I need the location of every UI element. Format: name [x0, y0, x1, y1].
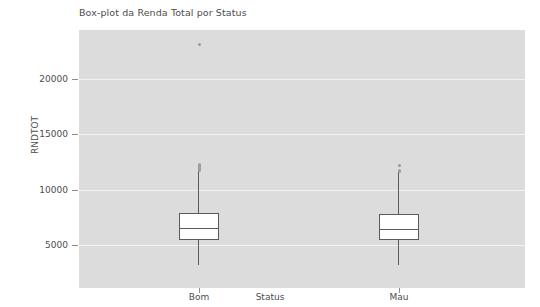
- y-tick-label-5000: 5000: [0, 239, 79, 251]
- y-tick-mark-5000: [72, 245, 78, 246]
- boxplot-figure: Box-plot da Renda Total por Status RNDTO…: [0, 0, 540, 307]
- mau-outlier-high: [398, 164, 401, 167]
- bom-outlier-high: [198, 43, 201, 46]
- gridline-20000: [79, 79, 525, 80]
- y-tick-mark-20000: [72, 79, 78, 80]
- mau-lower-whisker: [398, 240, 399, 265]
- mau-box: [379, 214, 419, 240]
- gridline-10000: [79, 190, 525, 191]
- gridline-5000: [79, 245, 525, 246]
- bom-outlier-cluster: [198, 163, 201, 172]
- mau-upper-whisker: [398, 172, 399, 214]
- x-axis-title: Status: [0, 292, 540, 302]
- bom-box: [179, 213, 219, 240]
- mau-median: [379, 229, 419, 230]
- bom-median: [179, 228, 219, 229]
- mau-outlier-cluster: [398, 169, 401, 173]
- y-tick-label-10000: 10000: [0, 184, 79, 196]
- y-tick-mark-15000: [72, 134, 78, 135]
- bom-upper-whisker: [198, 167, 199, 213]
- y-tick-mark-10000: [72, 190, 78, 191]
- bom-lower-whisker: [198, 240, 199, 265]
- y-tick-label-15000: 15000: [0, 128, 79, 140]
- y-tick-label-20000: 20000: [0, 73, 79, 85]
- plot-panel: [79, 30, 525, 288]
- chart-title: Box-plot da Renda Total por Status: [79, 7, 247, 18]
- gridline-15000: [79, 134, 525, 135]
